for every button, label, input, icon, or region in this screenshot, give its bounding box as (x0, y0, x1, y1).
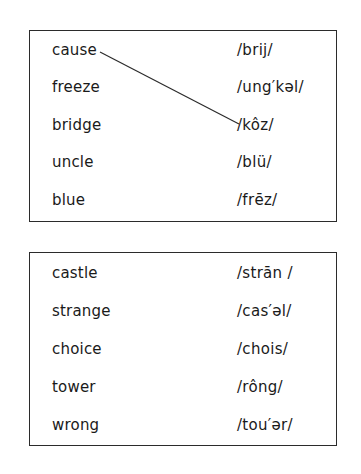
word-item[interactable]: cause (52, 38, 97, 62)
match-row: cause /brij/ (30, 38, 336, 62)
word-item[interactable]: tower (52, 375, 96, 399)
matching-exercise-2: castle /strān / strange /cas′əl/ choice … (29, 252, 337, 446)
pronunciation-item[interactable]: /ung′kəl/ (237, 75, 304, 99)
matching-exercise-1: cause /brij/ freeze /ung′kəl/ bridge /kô… (29, 30, 337, 222)
match-row: uncle /blü/ (30, 150, 336, 174)
pronunciation-item[interactable]: /chois/ (237, 337, 288, 361)
match-row: castle /strān / (30, 261, 336, 285)
word-item[interactable]: blue (52, 188, 85, 212)
pronunciation-item[interactable]: /frēz/ (237, 188, 277, 212)
word-item[interactable]: freeze (52, 75, 100, 99)
match-row: bridge /kôz/ (30, 113, 336, 137)
word-item[interactable]: wrong (52, 413, 99, 437)
pronunciation-item[interactable]: /rông/ (237, 375, 283, 399)
pronunciation-item[interactable]: /strān / (237, 261, 293, 285)
match-row: wrong /tou′ər/ (30, 413, 336, 437)
pronunciation-item[interactable]: /cas′əl/ (237, 299, 292, 323)
match-row: strange /cas′əl/ (30, 299, 336, 323)
pronunciation-item[interactable]: /blü/ (237, 150, 272, 174)
match-row: blue /frēz/ (30, 188, 336, 212)
match-row: choice /chois/ (30, 337, 336, 361)
word-item[interactable]: choice (52, 337, 102, 361)
pronunciation-item[interactable]: /tou′ər/ (237, 413, 293, 437)
pronunciation-item[interactable]: /brij/ (237, 38, 273, 62)
match-row: tower /rông/ (30, 375, 336, 399)
word-item[interactable]: bridge (52, 113, 101, 137)
word-item[interactable]: castle (52, 261, 98, 285)
word-item[interactable]: uncle (52, 150, 94, 174)
pronunciation-item[interactable]: /kôz/ (237, 113, 274, 137)
match-row: freeze /ung′kəl/ (30, 75, 336, 99)
word-item[interactable]: strange (52, 299, 111, 323)
